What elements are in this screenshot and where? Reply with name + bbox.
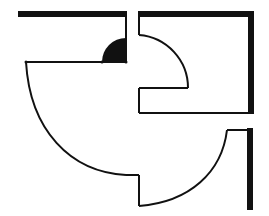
bottom-right-door-swing [139, 130, 227, 206]
floor-plan-svg [0, 0, 269, 216]
top-left-door-symbol [18, 14, 128, 175]
filled-quarter-swing [102, 38, 126, 62]
hinge-dot-right [125, 61, 128, 64]
hinge-dot-mid [101, 61, 104, 64]
top-right-door-swing [139, 35, 188, 88]
floor-plan-diagram [0, 0, 269, 216]
large-door-swing-arc [26, 62, 126, 175]
top-right-door-symbol [138, 12, 254, 114]
bottom-right-door-symbol [126, 128, 250, 210]
